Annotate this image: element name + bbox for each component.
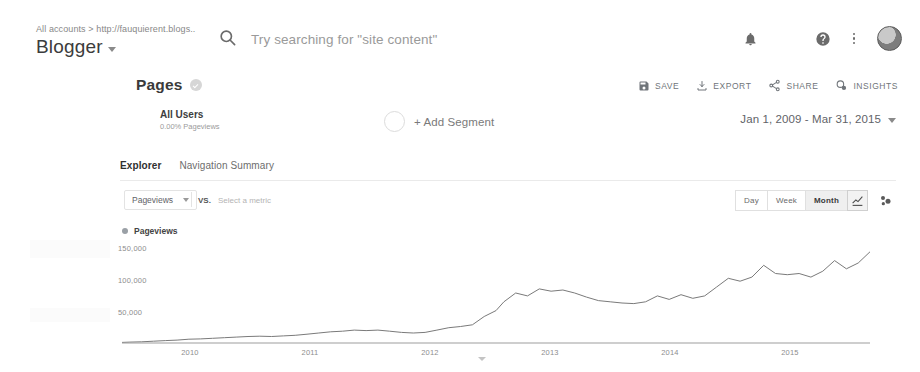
legend-label-pageviews: Pageviews <box>134 226 177 236</box>
report-actions: SAVE EXPORT SHARE INSIGHTS <box>638 79 898 92</box>
insights-button[interactable]: INSIGHTS <box>835 79 898 92</box>
x-tick-2011: 2011 <box>302 348 319 357</box>
granularity-week[interactable]: Week <box>767 190 806 211</box>
granularity-month[interactable]: Month <box>805 190 848 211</box>
x-tick-2010: 2010 <box>181 348 199 357</box>
pageviews-line <box>122 252 870 343</box>
segment-all-users[interactable]: All Users 0.00% Pageviews <box>160 109 220 131</box>
granularity-group: Day Week Month <box>736 190 848 211</box>
analytics-page: All accounts > http://fauquierent.blogs.… <box>0 0 920 372</box>
add-segment-circle-icon <box>384 111 405 132</box>
chevron-down-icon <box>183 198 189 202</box>
report-tabs: Explorer Navigation Summary <box>120 160 274 176</box>
chart-svg <box>122 240 870 344</box>
save-label: SAVE <box>655 81 679 91</box>
tabs-divider <box>120 180 896 181</box>
x-tick-2013: 2013 <box>541 348 559 357</box>
x-tick-2015: 2015 <box>781 348 799 357</box>
pageviews-chart: 150,000 100,000 50,000 <box>118 240 870 348</box>
more-vert-icon[interactable] <box>853 33 856 45</box>
chevron-down-icon <box>888 118 896 123</box>
vs-label: VS. <box>198 196 211 205</box>
chevron-down-icon[interactable] <box>108 47 116 52</box>
avatar[interactable] <box>877 26 902 51</box>
help-icon[interactable] <box>815 31 831 47</box>
export-icon <box>696 80 708 92</box>
property-name: Blogger <box>36 36 103 58</box>
chart-legend: Pageviews <box>122 226 177 236</box>
add-segment-label: + Add Segment <box>414 116 494 128</box>
grid-icon[interactable] <box>780 32 793 45</box>
background-artifact <box>30 240 110 258</box>
save-button[interactable]: SAVE <box>638 80 679 92</box>
chart-type-group <box>847 190 894 211</box>
tab-navigation-summary[interactable]: Navigation Summary <box>179 160 274 176</box>
granularity-day[interactable]: Day <box>735 190 768 211</box>
export-label: EXPORT <box>713 81 751 91</box>
segment-name: All Users <box>160 109 220 120</box>
search-icon <box>218 28 237 51</box>
save-icon <box>638 80 650 92</box>
legend-color-dot <box>122 228 128 234</box>
insights-label: INSIGHTS <box>853 81 898 91</box>
x-tick-2012: 2012 <box>421 348 439 357</box>
share-button[interactable]: SHARE <box>768 79 818 92</box>
verified-badge-icon <box>190 79 202 91</box>
share-icon <box>768 79 781 92</box>
segment-bar: All Users 0.00% Pageviews + Add Segment … <box>136 107 896 141</box>
share-label: SHARE <box>786 81 818 91</box>
date-range-selector[interactable]: Jan 1, 2009 - Mar 31, 2015 <box>740 113 896 125</box>
metric-select[interactable]: Pageviews <box>124 190 197 210</box>
line-chart-icon[interactable] <box>847 190 868 211</box>
breadcrumb[interactable]: All accounts > http://fauquierent.blogs.… <box>36 24 195 34</box>
search-input[interactable]: Try searching for "site content" <box>251 32 437 47</box>
x-axis: 2010 2011 2012 2013 2014 2015 <box>118 348 870 362</box>
top-icon-group <box>743 26 903 51</box>
segment-subtitle: 0.00% Pageviews <box>160 122 220 131</box>
page-title-row: Pages <box>136 76 202 94</box>
axis-expand-caret-icon[interactable] <box>478 357 486 361</box>
compare-metric-select[interactable]: Select a metric <box>218 196 271 205</box>
account-selector[interactable]: All accounts > http://fauquierent.blogs.… <box>36 24 195 58</box>
tab-explorer[interactable]: Explorer <box>120 160 161 176</box>
metric-controls: Pageviews VS. Select a metric Day Week M… <box>120 190 896 218</box>
metric-select-value: Pageviews <box>132 195 173 205</box>
background-artifact <box>30 308 110 322</box>
chart-plot-area[interactable] <box>122 240 870 344</box>
x-tick-2014: 2014 <box>661 348 679 357</box>
date-range-label: Jan 1, 2009 - Mar 31, 2015 <box>740 113 881 125</box>
add-segment-button[interactable]: + Add Segment <box>384 111 494 132</box>
export-button[interactable]: EXPORT <box>696 80 751 92</box>
bell-icon[interactable] <box>743 31 758 47</box>
motion-chart-icon[interactable] <box>876 192 894 210</box>
top-bar: All accounts > http://fauquierent.blogs.… <box>0 0 920 68</box>
divider <box>191 192 192 207</box>
search-box[interactable]: Try searching for "site content" <box>218 28 437 51</box>
insights-icon <box>835 79 848 92</box>
page-title: Pages <box>136 76 183 94</box>
